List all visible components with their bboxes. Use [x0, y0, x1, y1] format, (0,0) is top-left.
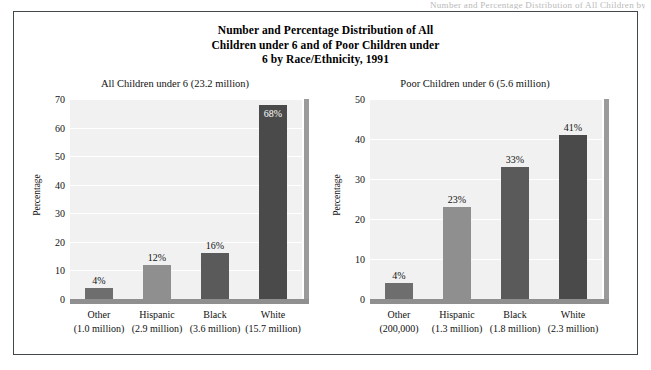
x-axis-category-name: White: [561, 309, 585, 320]
y-axis-tick-label: 10: [25, 265, 65, 276]
figure-title-line-3: 6 by Race/Ethnicity, 1991: [14, 52, 637, 67]
bar-value-label: 12%: [127, 252, 187, 263]
plot-floor-right: [370, 299, 609, 304]
figure-title: Number and Percentage Distribution of Al…: [14, 23, 637, 67]
y-axis-tick-label: 20: [25, 236, 65, 247]
bar-other: [85, 288, 113, 299]
y-axis-tick-label: 60: [25, 122, 65, 133]
bar-black: [201, 253, 229, 299]
figure-frame: Number and Percentage Distribution of Al…: [13, 11, 638, 355]
bar-white: [259, 105, 287, 299]
x-axis-category-count: (2.3 million): [536, 322, 610, 336]
y-axis-tick-label: 30: [325, 174, 365, 185]
y-axis-tick-label: 0: [25, 294, 65, 305]
bar-value-label: 68%: [243, 108, 303, 119]
x-axis-category-name: Hispanic: [439, 309, 475, 320]
chart-title-all-children: All Children under 6 (23.2 million): [25, 78, 325, 89]
x-axis-category-name: Other: [388, 309, 411, 320]
plot-area-all-children: [70, 99, 302, 299]
y-axis-tick-label: 30: [25, 208, 65, 219]
chart-panel-poor-children: Poor Children under 6 (5.6 million) Perc…: [325, 78, 625, 346]
x-axis-category-name: Hispanic: [139, 309, 175, 320]
x-axis-category-name: Black: [503, 309, 526, 320]
y-axis-tick-label: 50: [325, 94, 365, 105]
y-axis-tick-label: 40: [25, 179, 65, 190]
scan-artifact-text: Number and Percentage Distribution of Al…: [430, 0, 645, 9]
y-axis-title-left: Percentage: [32, 160, 42, 230]
figure-title-line-2: Children under 6 and of Poor Children un…: [14, 38, 637, 53]
bar-other: [385, 283, 413, 299]
x-axis-category-label: White(2.3 million): [536, 308, 610, 336]
y-axis-tick-label: 40: [325, 134, 365, 145]
gridline: [370, 99, 602, 100]
y-axis-tick-label: 10: [325, 254, 365, 265]
bar-hispanic: [143, 265, 171, 299]
x-axis-category-label: White(15.7 million): [236, 308, 310, 336]
bar-value-label: 23%: [427, 194, 487, 205]
y-axis-tick-label: 70: [25, 94, 65, 105]
figure-title-line-1: Number and Percentage Distribution of Al…: [14, 23, 637, 38]
bar-hispanic: [443, 207, 471, 299]
x-axis-category-name: White: [261, 309, 285, 320]
bar-value-label: 4%: [69, 275, 129, 286]
plot-right-shadow-right: [604, 99, 609, 299]
plot-floor-left: [70, 299, 309, 304]
x-axis-category-name: Black: [203, 309, 226, 320]
chart-title-poor-children: Poor Children under 6 (5.6 million): [325, 78, 625, 89]
bar-value-label: 16%: [185, 240, 245, 251]
x-axis-category-count: (15.7 million): [236, 322, 310, 336]
bar-value-label: 41%: [543, 122, 603, 133]
gridline: [70, 99, 302, 100]
chart-panel-all-children: All Children under 6 (23.2 million) Perc…: [25, 78, 325, 346]
y-axis-tick-label: 50: [25, 151, 65, 162]
y-axis-tick-label: 20: [325, 214, 365, 225]
bar-value-label: 4%: [369, 270, 429, 281]
plot-right-shadow-left: [304, 99, 309, 299]
bar-value-label: 33%: [485, 154, 545, 165]
x-axis-category-name: Other: [88, 309, 111, 320]
y-axis-tick-label: 0: [325, 294, 365, 305]
bar-white: [559, 135, 587, 299]
bar-black: [501, 167, 529, 299]
